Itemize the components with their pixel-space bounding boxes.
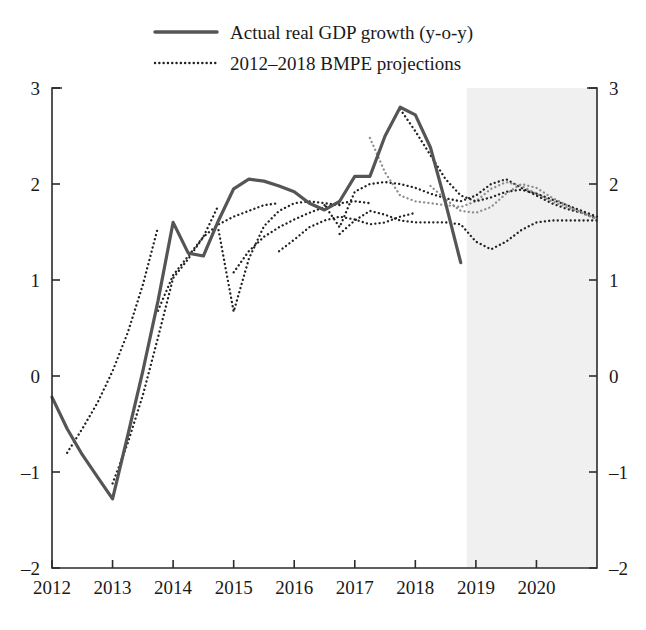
y-axis-label-left: 1 bbox=[31, 270, 41, 291]
y-axis-label-right: –1 bbox=[608, 462, 628, 483]
x-axis-label: 2012 bbox=[33, 577, 71, 598]
y-axis-label-left: 2 bbox=[31, 174, 41, 195]
x-axis-label: 2018 bbox=[396, 577, 434, 598]
x-axis-label: 2017 bbox=[336, 577, 374, 598]
y-axis-label-right: 1 bbox=[609, 270, 619, 291]
legend-label: 2012–2018 BMPE projections bbox=[230, 53, 461, 74]
x-axis-label: 2013 bbox=[94, 577, 132, 598]
y-axis-label-right: 3 bbox=[609, 78, 619, 99]
y-axis-label-left: 0 bbox=[31, 366, 41, 387]
y-axis-label-right: 2 bbox=[609, 174, 619, 195]
gdp-projection-chart: 3210–1–23210–1–2201220132014201520162017… bbox=[0, 0, 646, 630]
x-axis-label: 2014 bbox=[154, 577, 193, 598]
y-axis-label-left: –2 bbox=[20, 558, 40, 579]
forecast-shading bbox=[467, 88, 597, 568]
chart-figure: 3210–1–23210–1–2201220132014201520162017… bbox=[0, 0, 646, 630]
x-axis-label: 2015 bbox=[215, 577, 253, 598]
y-axis-label-right: 0 bbox=[609, 366, 619, 387]
y-axis-label-right: –2 bbox=[608, 558, 628, 579]
forecast-shaded-region bbox=[467, 88, 597, 568]
y-axis-label-left: 3 bbox=[31, 78, 41, 99]
legend-label: Actual real GDP growth (y-o-y) bbox=[230, 22, 473, 44]
y-axis-label-left: –1 bbox=[20, 462, 40, 483]
x-axis-label: 2020 bbox=[517, 577, 555, 598]
x-axis-label: 2016 bbox=[275, 577, 313, 598]
x-axis-label: 2019 bbox=[457, 577, 495, 598]
